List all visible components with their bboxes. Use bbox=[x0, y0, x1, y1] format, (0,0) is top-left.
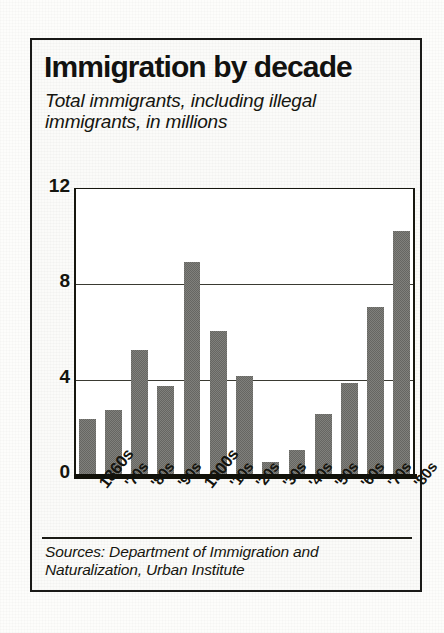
y-tick-12: 12 bbox=[36, 175, 70, 197]
y-tick-4: 4 bbox=[36, 366, 70, 388]
x-axis-tick-labels: 1860s'70s'80s'90s1900s'10s'20s'30s'40s'5… bbox=[74, 480, 419, 550]
bar-series bbox=[74, 188, 415, 474]
chart-plot-area: 04812 1860s'70s'80s'90s1900s'10s'20s'30s… bbox=[32, 40, 424, 594]
bar-1900s bbox=[184, 262, 201, 474]
y-tick-8: 8 bbox=[36, 270, 70, 292]
bar-80s bbox=[393, 231, 410, 474]
bar-70s bbox=[367, 307, 384, 474]
source-divider bbox=[42, 537, 412, 539]
y-axis-tick-labels: 04812 bbox=[32, 40, 70, 594]
chart-figure: Immigration by decade Total immigrants, … bbox=[30, 38, 422, 592]
bar-1860s bbox=[79, 419, 96, 474]
y-tick-0: 0 bbox=[36, 461, 70, 483]
source-note: Sources: Department of Immigration and N… bbox=[45, 543, 413, 580]
